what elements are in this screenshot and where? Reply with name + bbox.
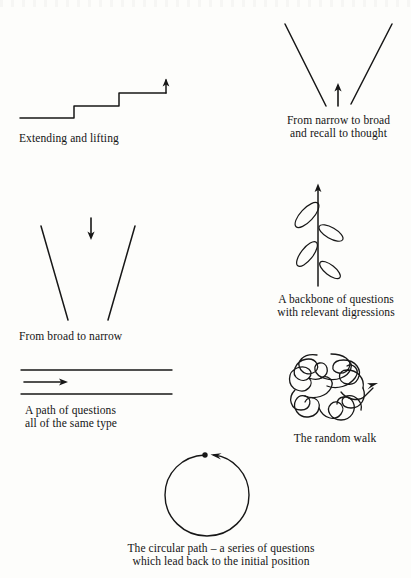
- caption-path-of-questions: A path of questions all of the same type: [25, 404, 205, 431]
- circle-with-return-arrow-icon: [162, 452, 256, 538]
- figure-extending-and-lifting: [18, 78, 183, 126]
- caption-broad-to-narrow: From broad to narrow: [19, 330, 209, 343]
- tangled-scribble-arrow-icon: [283, 352, 387, 430]
- parallel-rails-right-arrow-icon: [20, 367, 178, 397]
- figure-narrow-to-broad: [276, 22, 401, 108]
- figure-circular-path: [162, 452, 256, 538]
- caption-circular-path: The circular path – a series of question…: [82, 542, 360, 569]
- caption-random-walk: The random walk: [265, 432, 405, 445]
- page-top-bleed-artifact: [0, 0, 411, 7]
- figure-path-of-questions: [20, 367, 178, 397]
- staircase-rising-arrow-icon: [18, 78, 183, 126]
- figure-page: Extending and lifting From narrow to bro…: [0, 0, 411, 578]
- figure-backbone-of-questions: [294, 178, 364, 288]
- figure-broad-to-narrow: [38, 196, 158, 322]
- caption-backbone-of-questions: A backbone of questions with relevant di…: [261, 293, 411, 320]
- v-shape-opening-upward-icon: [276, 22, 401, 108]
- caption-extending-and-lifting: Extending and lifting: [19, 132, 199, 145]
- backbone-with-leaf-loops-icon: [294, 178, 364, 288]
- funnel-narrowing-downward-icon: [38, 196, 158, 322]
- figure-random-walk: [283, 352, 387, 430]
- caption-narrow-to-broad: From narrow to broad and recall to thoug…: [266, 114, 411, 141]
